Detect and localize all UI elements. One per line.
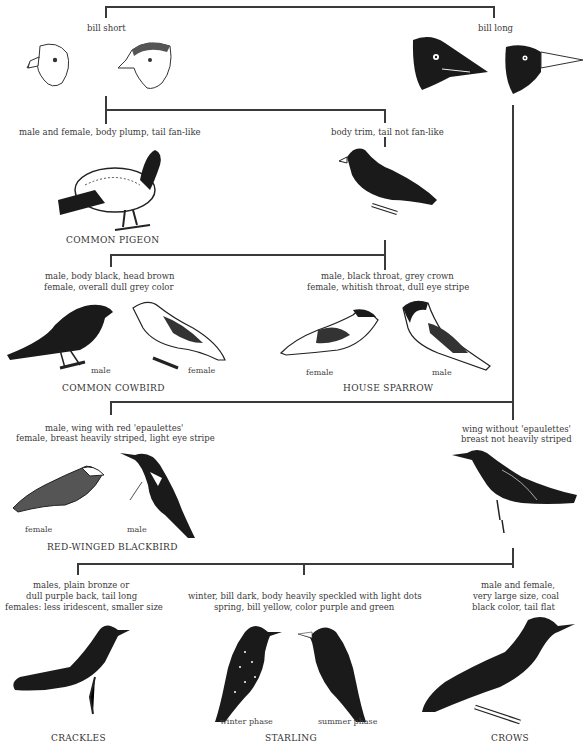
label-no-epaulettes-1: wing without 'epaulettes' bbox=[462, 424, 571, 434]
cowbird-male-illustration bbox=[5, 300, 115, 375]
connector-top-left-drop bbox=[105, 6, 107, 18]
bird-head-short-bill-2-icon bbox=[112, 38, 172, 93]
redwing-male-label: male bbox=[127, 525, 147, 534]
label-body-plump: male and female, body plump, tail fan-li… bbox=[19, 127, 201, 137]
starling-winter-illustration bbox=[210, 622, 285, 727]
label-sparrow-traits-1: male, black throat, grey crown bbox=[321, 271, 454, 281]
connector-level5 bbox=[77, 563, 514, 565]
name-common-pigeon: COMMON PIGEON bbox=[66, 235, 159, 245]
label-crackles-traits-1: males, plain bronze or bbox=[33, 580, 129, 590]
label-cowbird-traits-1: male, body black, head brown bbox=[45, 271, 174, 281]
sparrow-male-label: male bbox=[432, 368, 452, 377]
bird-head-short-bill-1-icon bbox=[22, 38, 72, 93]
cowbird-female-illustration bbox=[123, 298, 228, 373]
connector-level4-left-drop bbox=[110, 401, 112, 415]
redwing-female-illustration bbox=[10, 460, 105, 520]
connector-level3-left-drop bbox=[110, 254, 112, 267]
label-starling-traits-2: spring, bill yellow, color purple and gr… bbox=[214, 602, 394, 612]
name-red-winged-blackbird: RED-WINGED BLACKBIRD bbox=[47, 542, 178, 552]
label-crows-traits-2: very large size, coal bbox=[473, 591, 559, 601]
starling-summer-illustration bbox=[296, 622, 371, 727]
label-crackles-traits-3: females: less iridescent, smaller size bbox=[5, 602, 163, 612]
name-common-cowbird: COMMON COWBIRD bbox=[62, 383, 165, 393]
label-sparrow-traits-2: female, whitish throat, dull eye stripe bbox=[307, 282, 469, 292]
connector-level5-stem bbox=[512, 548, 514, 568]
connector-level3 bbox=[110, 254, 386, 256]
connector-level4 bbox=[110, 401, 514, 403]
cowbird-female-label: female bbox=[188, 366, 215, 375]
connector-level2-right-drop bbox=[384, 109, 386, 123]
label-bill-long: bill long bbox=[478, 23, 513, 33]
connector-level2 bbox=[105, 109, 386, 111]
label-cowbird-traits-2: female, overall dull grey color bbox=[44, 282, 174, 292]
crows-illustration bbox=[420, 612, 580, 727]
name-house-sparrow: HOUSE SPARROW bbox=[343, 383, 433, 393]
starling-winter-label: winter phase bbox=[220, 717, 273, 726]
connector-long-main bbox=[512, 105, 514, 420]
label-blackbird-traits-2: female, breast heavily striped, light ey… bbox=[16, 433, 215, 443]
starling-summer-label: summer phase bbox=[318, 717, 377, 726]
name-starling: STARLING bbox=[265, 733, 317, 743]
bird-head-long-bill-1-icon bbox=[410, 35, 490, 90]
name-crackles: CRACKLES bbox=[51, 733, 106, 743]
label-crows-traits-3: black color, tail flat bbox=[472, 602, 555, 612]
no-epaulettes-blackbird-illustration bbox=[452, 445, 582, 535]
connector-level5-mid-drop bbox=[303, 563, 305, 575]
label-no-epaulettes-2: breast not heavily striped bbox=[461, 434, 572, 444]
common-pigeon-illustration bbox=[55, 145, 165, 235]
label-bill-short: bill short bbox=[87, 23, 126, 33]
label-body-trim: body trim, tail not fan-like bbox=[331, 127, 444, 137]
label-starling-traits-1: winter, bill dark, body heavily speckled… bbox=[188, 591, 422, 601]
connector-top bbox=[105, 6, 405, 8]
sparrow-female-label: female bbox=[306, 368, 333, 377]
label-crows-traits-1: male and female, bbox=[481, 580, 555, 590]
trim-blackbird-illustration bbox=[337, 145, 442, 225]
bird-head-long-bill-2-icon bbox=[503, 42, 587, 97]
label-crackles-traits-2: dull purple back, tail long bbox=[26, 591, 137, 601]
name-crows: CROWS bbox=[491, 733, 529, 743]
redwing-female-label: female bbox=[25, 525, 52, 534]
sparrow-male-illustration bbox=[398, 298, 493, 378]
connector-level5-left-drop bbox=[77, 563, 79, 575]
cowbird-male-label: male bbox=[91, 366, 111, 375]
crackles-illustration bbox=[10, 622, 135, 717]
label-blackbird-traits-1: male, wing with red 'epaulettes' bbox=[45, 423, 183, 433]
connector-top-right bbox=[405, 6, 495, 8]
